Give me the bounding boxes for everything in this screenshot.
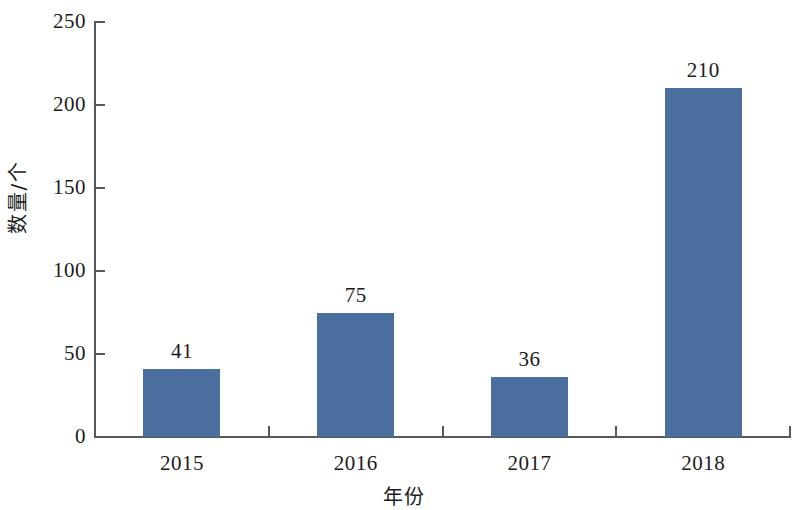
bar-value-label-2017: 36 [479,349,579,370]
x-axis-label-2018: 2018 [643,452,763,474]
bar-chart-figure: 050100150200250 417536210 20152016201720… [0,0,808,510]
x-axis-label-2017: 2017 [469,452,589,474]
bar-value-label-2018: 210 [653,60,753,81]
bar-2015 [143,369,220,437]
x-axis-label-2016: 2016 [296,452,416,474]
x-axis-title: 年份 [0,486,808,508]
x-axis-label-2015: 2015 [122,452,242,474]
bar-2017 [491,377,568,437]
y-axis-title: 数量/个 [7,127,29,267]
bar-value-label-2015: 41 [132,341,232,362]
bar-2018 [665,88,742,437]
bar-2016 [317,313,394,438]
bar-value-label-2016: 75 [306,285,406,306]
